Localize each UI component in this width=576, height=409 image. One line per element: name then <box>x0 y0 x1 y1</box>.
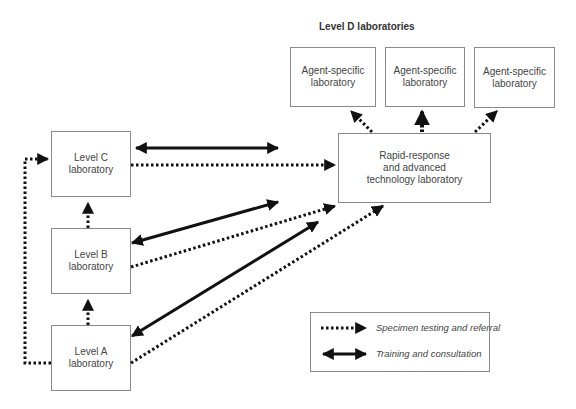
specimen-arrow-rapid-agent3 <box>475 111 497 132</box>
legend-specimen-label: Specimen testing and referral <box>376 322 500 333</box>
legend: Specimen testing and referral Training a… <box>310 312 490 372</box>
training-arrow-b <box>132 202 278 243</box>
specimen-arrow-rapid-agent1 <box>351 111 372 132</box>
specimen-arrow-a-c <box>25 159 51 363</box>
legend-training-label: Training and consultation <box>376 348 481 359</box>
training-arrow-a <box>132 222 318 336</box>
